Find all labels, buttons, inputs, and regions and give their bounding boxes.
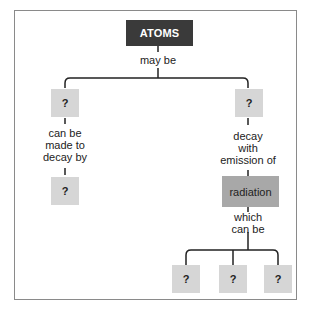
link-label-line: decay [220,130,276,142]
link-label-line: can be [231,223,264,235]
node-radiation: radiation [222,176,279,207]
link-label-line: which [231,211,264,223]
node-leaf-3-unknown: ? [264,265,292,293]
link-label-left-branch: can be made to decay by [43,127,87,163]
node-leaf-1-unknown: ? [172,265,200,293]
link-label-line: decay by [43,151,87,163]
node-atoms: ATOMS [126,20,193,46]
link-label-line: made to [43,139,87,151]
link-label-line: emission of [220,154,276,166]
link-label-which-can-be: which can be [231,211,264,235]
link-label-right-branch: decay with emission of [220,130,276,166]
link-label-line: with [220,142,276,154]
link-label-line: can be [43,127,87,139]
node-left-bottom-unknown: ? [51,177,79,205]
node-left-top-unknown: ? [51,89,79,117]
node-leaf-2-unknown: ? [219,265,247,293]
link-label-may-be: may be [140,54,176,66]
node-right-top-unknown: ? [235,89,263,117]
